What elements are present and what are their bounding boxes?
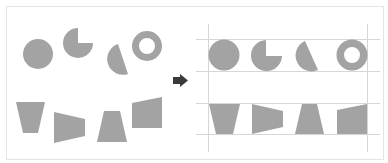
aligned-pie-shape xyxy=(251,40,282,71)
after-group xyxy=(209,40,368,135)
aligned-skewed-quad-shape xyxy=(252,104,283,134)
before-group xyxy=(16,28,162,143)
pie-shape xyxy=(63,28,93,58)
aligned-half-circle-shape xyxy=(296,41,318,71)
aligned-ring-shape xyxy=(337,40,368,71)
half-circle-shape xyxy=(107,44,128,75)
trapezoid-shape xyxy=(97,111,127,142)
aligned-trapezoid-shape xyxy=(295,104,324,134)
alignment-diagram xyxy=(0,0,388,163)
arrow-right-icon xyxy=(173,74,188,87)
slanted-top-quad-shape xyxy=(132,97,162,128)
aligned-slanted-top-quad-shape xyxy=(337,104,367,134)
inverted-trapezoid-shape xyxy=(16,102,45,133)
aligned-circle-shape xyxy=(209,40,240,71)
ring-shape xyxy=(132,31,162,61)
aligned-inverted-trapezoid-shape xyxy=(209,104,240,134)
skewed-quad-shape xyxy=(54,112,85,143)
circle-shape xyxy=(23,39,53,69)
